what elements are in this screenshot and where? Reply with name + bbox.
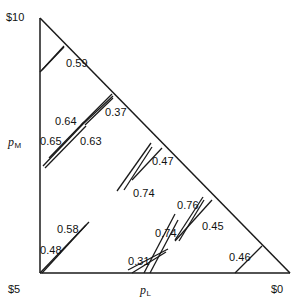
segment-0-59-1 <box>42 46 64 70</box>
segment-0-63-0 <box>45 126 86 168</box>
segment-label: 0.37 <box>105 107 127 118</box>
segment-label: 0.64 <box>55 116 77 127</box>
segment-label: 0.74 <box>133 188 155 199</box>
segment-label: 0.47 <box>152 156 174 167</box>
annotation-segments <box>40 46 262 273</box>
segment-label: 0.59 <box>66 58 88 69</box>
segment-label: 0.76 <box>177 200 199 211</box>
segment-label: 0.74 <box>155 228 177 239</box>
segment-0-74-0 <box>117 143 151 191</box>
segment-label: 0.65 <box>40 136 62 147</box>
x-axis-title-text: p <box>140 283 146 297</box>
corner-label-bottom-right: $0 <box>271 284 283 295</box>
segment-label: 0.58 <box>57 224 79 235</box>
segment-label: 0.48 <box>40 245 62 256</box>
segment-label: 0.31 <box>128 256 150 267</box>
x-axis-title-subscript: L <box>147 289 151 298</box>
corner-label-top-left: $10 <box>6 12 24 23</box>
corner-label-bottom-left: $5 <box>8 284 20 295</box>
segment-label: 0.46 <box>229 252 251 263</box>
y-axis-title-text: p <box>8 135 14 149</box>
price-simplex-figure: $10 $5 $0 pM pL 0.590.370.640.650.630.47… <box>0 0 301 308</box>
x-axis-title: pL <box>140 284 150 296</box>
y-axis-title-subscript: M <box>15 141 22 150</box>
segment-0-74-1 <box>124 147 152 190</box>
segment-label: 0.45 <box>202 221 224 232</box>
plot-canvas <box>0 0 301 308</box>
segment-label: 0.63 <box>80 136 102 147</box>
y-axis-title: pM <box>8 136 21 148</box>
